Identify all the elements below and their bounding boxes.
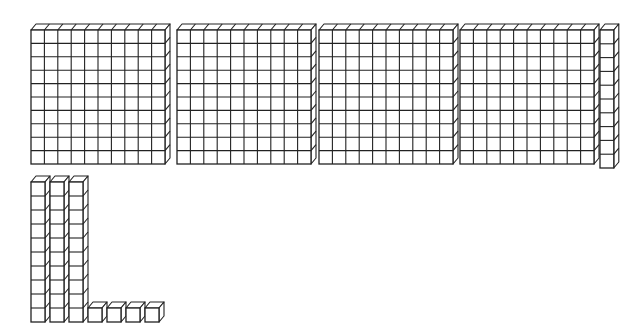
hundreds-flats-group [31,24,599,164]
ten-rod [50,176,69,322]
hundred-flat [31,24,170,164]
unit-cube [126,302,145,322]
unit-cube [107,302,126,322]
ten-rod [600,24,619,168]
base-ten-blocks-diagram: Base-ten blocks representing 444 [0,0,639,333]
ten-rod [69,176,88,322]
unit-cube [145,302,164,322]
unit-cube [88,302,107,322]
blocks-svg [0,0,639,333]
hundred-flat [177,24,316,164]
hundred-flat [460,24,599,164]
hundred-flat [319,24,458,164]
ones-units-group [88,302,164,322]
ten-rod [31,176,50,322]
